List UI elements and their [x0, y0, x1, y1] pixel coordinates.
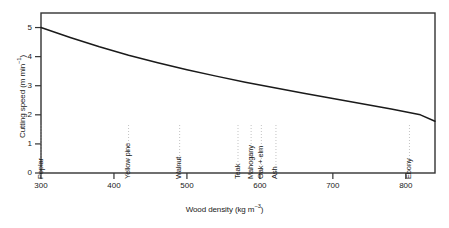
y-tick-label: 3	[12, 81, 32, 90]
cutting-speed-curve	[41, 28, 435, 122]
species-label: Ash	[270, 167, 279, 179]
species-label: Teak	[233, 164, 242, 179]
y-tick-label: 4	[12, 52, 32, 61]
species-tick-marks	[41, 125, 409, 173]
x-tick-label: 500	[172, 181, 202, 190]
x-tick-label: 400	[99, 181, 129, 190]
x-axis-title: Wood density (kg m−3)	[0, 205, 449, 214]
x-axis-ticks	[41, 173, 406, 179]
plot-area	[0, 0, 449, 228]
species-label: Ebony	[404, 158, 413, 179]
wood-density-cutting-speed-chart: Wood density (kg m−3) Cutting speed (m m…	[0, 0, 449, 228]
x-tick-label: 300	[26, 181, 56, 190]
x-tick-label: 800	[391, 181, 421, 190]
y-tick-label: 5	[12, 23, 32, 32]
species-label: Oak + elm	[256, 146, 265, 179]
x-tick-label: 600	[245, 181, 275, 190]
species-label: Poplar	[36, 158, 45, 179]
species-label: Yellow pine	[123, 143, 132, 179]
species-label: Walnut	[174, 157, 183, 179]
y-axis-ticks	[35, 28, 41, 173]
x-tick-label: 700	[318, 181, 348, 190]
y-tick-label: 0	[12, 168, 32, 177]
y-axis-title: Cutting speed (m min−1)	[18, 17, 27, 177]
species-label: Mahogany	[246, 145, 255, 179]
y-tick-label: 1	[12, 139, 32, 148]
y-tick-label: 2	[12, 110, 32, 119]
